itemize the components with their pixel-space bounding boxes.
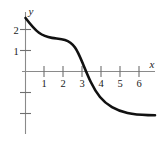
x-axis-label: x [149, 58, 155, 70]
y-tick-label-1: 1 [13, 46, 18, 57]
x-tick-label-1: 1 [41, 78, 46, 89]
y-tick-label-2: 2 [13, 25, 18, 36]
x-tick-label-4: 4 [98, 78, 104, 89]
y-axis-label: y [28, 5, 34, 17]
graph-figure: 1 2 3 4 5 6 2 1 x y [0, 0, 165, 143]
function-curve [26, 18, 156, 115]
coordinate-plot: 1 2 3 4 5 6 2 1 x y [0, 0, 165, 143]
x-tick-label-6: 6 [136, 78, 141, 89]
x-tick-label-2: 2 [60, 78, 65, 89]
x-tick-label-3: 3 [79, 78, 84, 89]
x-tick-label-5: 5 [117, 78, 122, 89]
